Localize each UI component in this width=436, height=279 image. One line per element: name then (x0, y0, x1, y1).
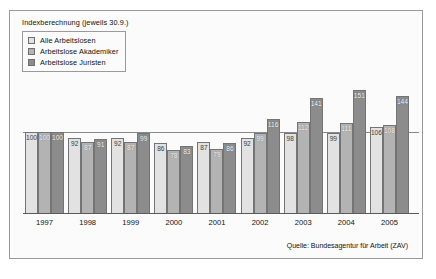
bar[interactable] (124, 142, 137, 213)
bar-wrap: 111 (340, 83, 353, 213)
bar[interactable] (137, 133, 150, 213)
bar-wrap: 87 (124, 83, 137, 213)
legend-label: Arbeitslose Akademiker (40, 47, 118, 56)
bar-wrap: 100 (51, 83, 64, 213)
x-axis-tick-label: 2000 (152, 218, 195, 227)
bar-group: 9299116 (239, 83, 282, 213)
bar-groups: 1001001009287919287998678838779869299116… (23, 83, 411, 213)
bar-wrap: 112 (297, 83, 310, 213)
bar-group: 867883 (152, 83, 195, 213)
bar-wrap: 86 (223, 83, 236, 213)
bar[interactable] (310, 98, 323, 213)
bar-group: 98112141 (282, 83, 325, 213)
bar-wrap: 87 (197, 83, 210, 213)
bar[interactable] (370, 127, 383, 213)
bar-group: 100100100 (23, 83, 66, 213)
bar-wrap: 116 (267, 83, 280, 213)
chart-frame: Indexberechnung (jeweils 30.9.) Alle Arb… (9, 10, 423, 259)
bar-wrap: 100 (25, 83, 38, 213)
bar-wrap: 141 (310, 83, 323, 213)
bar[interactable] (25, 132, 38, 213)
bar-wrap: 99 (327, 83, 340, 213)
bar[interactable] (197, 142, 210, 213)
bar-wrap: 86 (154, 83, 167, 213)
bar[interactable] (223, 143, 236, 213)
bar[interactable] (38, 132, 51, 213)
bar-wrap: 92 (241, 83, 254, 213)
bar[interactable] (254, 133, 267, 213)
legend-item-arbeitslose-akademiker: Arbeitslose Akademiker (28, 46, 118, 57)
bar[interactable] (353, 90, 366, 213)
bar[interactable] (81, 142, 94, 213)
bar[interactable] (68, 138, 81, 213)
bar-wrap: 83 (180, 83, 193, 213)
bar[interactable] (284, 133, 297, 213)
chart-page: Indexberechnung (jeweils 30.9.) Alle Arb… (0, 0, 436, 279)
bar-wrap: 106 (370, 83, 383, 213)
x-axis-tick-label: 2004 (325, 218, 368, 227)
x-axis-tick-label: 2001 (195, 218, 238, 227)
legend-label: Arbeitslose Juristen (40, 58, 106, 67)
legend-label: Alle Arbeitslosen (40, 36, 96, 45)
bar[interactable] (51, 132, 64, 213)
bar[interactable] (327, 133, 340, 213)
bar-wrap: 151 (353, 83, 366, 213)
bar[interactable] (297, 122, 310, 213)
bar[interactable] (180, 146, 193, 213)
bar-group: 99111151 (325, 83, 368, 213)
bar-wrap: 144 (396, 83, 409, 213)
bar-wrap: 99 (254, 83, 267, 213)
bar[interactable] (383, 125, 396, 213)
bar-wrap: 99 (137, 83, 150, 213)
bar-group: 928799 (109, 83, 152, 213)
legend-swatch-icon (28, 48, 35, 55)
x-axis-labels: 199719981999200020012002200320042005 (23, 218, 411, 227)
plot-area: 1001001009287919287998678838779869299116… (23, 83, 411, 213)
bar[interactable] (167, 150, 180, 213)
legend-swatch-icon (28, 59, 35, 66)
bar-wrap: 108 (383, 83, 396, 213)
bar-wrap: 91 (94, 83, 107, 213)
source-caption: Quelle: Bundesagentur für Arbeit (ZAV) (287, 242, 408, 249)
bar[interactable] (396, 96, 409, 213)
chart-title: Indexberechnung (jeweils 30.9.) (22, 18, 129, 27)
x-axis-tick-label: 1997 (23, 218, 66, 227)
bar-wrap: 87 (81, 83, 94, 213)
bar-group: 106108144 (368, 83, 411, 213)
bar-group: 877986 (195, 83, 238, 213)
bar[interactable] (267, 119, 280, 213)
x-axis-line (23, 213, 419, 214)
x-axis-tick-label: 1999 (109, 218, 152, 227)
bar-wrap: 78 (167, 83, 180, 213)
legend-item-alle-arbeitslosen: Alle Arbeitslosen (28, 35, 118, 46)
bar[interactable] (340, 123, 353, 213)
bar-wrap: 79 (210, 83, 223, 213)
x-axis-tick-label: 1998 (66, 218, 109, 227)
bar[interactable] (210, 149, 223, 213)
bar-wrap: 98 (284, 83, 297, 213)
x-axis-tick-label: 2005 (368, 218, 411, 227)
bar-wrap: 92 (68, 83, 81, 213)
x-axis-tick-label: 2002 (239, 218, 282, 227)
legend-item-arbeitslose-juristen: Arbeitslose Juristen (28, 57, 118, 68)
bar[interactable] (111, 138, 124, 213)
bar-wrap: 100 (38, 83, 51, 213)
x-axis-tick-label: 2003 (282, 218, 325, 227)
legend-swatch-icon (28, 37, 35, 44)
bar-group: 928791 (66, 83, 109, 213)
bar-wrap: 92 (111, 83, 124, 213)
chart-legend: Alle Arbeitslosen Arbeitslose Akademiker… (22, 31, 126, 72)
bar[interactable] (94, 139, 107, 213)
bar[interactable] (154, 143, 167, 213)
bar[interactable] (241, 138, 254, 213)
